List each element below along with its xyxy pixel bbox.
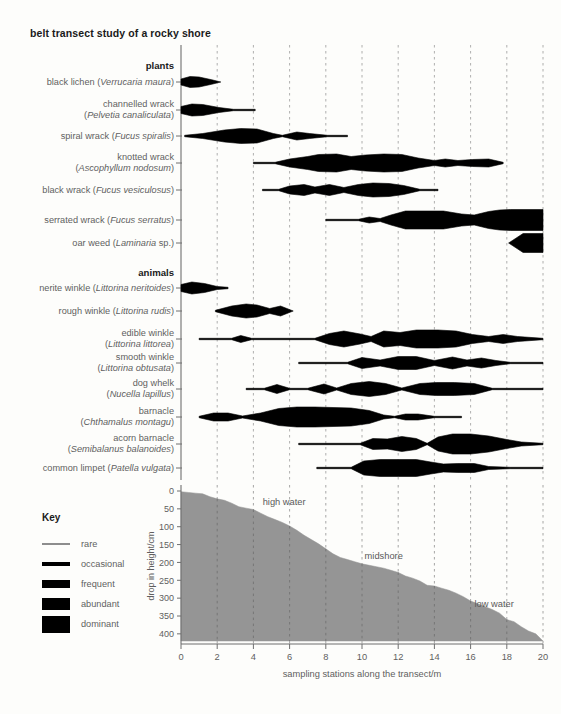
profile-y-tick-label: 250 [159, 576, 174, 586]
profile-x-axis-title: sampling stations along the transect/m [283, 669, 442, 679]
profile-x-tick-label: 2 [215, 652, 220, 662]
profile-y-tick-label: 0 [169, 486, 174, 496]
shore-profile-chart: 050100150200250300350400drop in height/c… [0, 0, 561, 714]
profile-x-tick-label: 20 [538, 652, 548, 662]
high-water-label: high water [263, 497, 306, 507]
profile-x-tick-label: 10 [357, 652, 367, 662]
profile-x-tick-label: 14 [429, 652, 439, 662]
profile-y-tick-label: 350 [159, 611, 174, 621]
profile-x-tick-label: 0 [178, 652, 183, 662]
profile-x-tick-label: 12 [393, 652, 403, 662]
profile-x-tick-label: 8 [323, 652, 328, 662]
profile-y-tick-label: 200 [159, 558, 174, 568]
profile-x-tick-label: 6 [287, 652, 292, 662]
profile-y-tick-label: 50 [164, 504, 174, 514]
profile-x-tick-label: 4 [251, 652, 256, 662]
profile-y-axis-title: drop in height/cm [146, 531, 156, 600]
profile-x-tick-label: 18 [502, 652, 512, 662]
transect-diagram: belt transect study of a rocky shore pla… [0, 0, 561, 714]
profile-x-tick-label: 16 [465, 652, 475, 662]
profile-y-tick-label: 300 [159, 593, 174, 603]
profile-y-tick-label: 400 [159, 629, 174, 639]
profile-y-tick-label: 150 [159, 540, 174, 550]
profile-y-tick-label: 100 [159, 522, 174, 532]
midshore-label: midshore [365, 551, 403, 561]
low-water-label: low water [474, 599, 513, 609]
